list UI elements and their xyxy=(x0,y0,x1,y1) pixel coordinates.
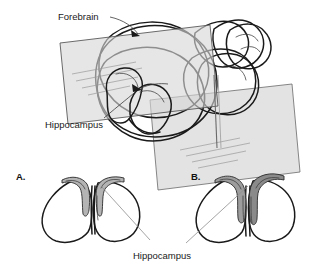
section-a-leader-line xyxy=(101,186,150,240)
bottom-panel-group: A. B. xyxy=(16,171,295,261)
hindbrain-lobe-2 xyxy=(213,20,264,68)
hindbrain-fold-2 xyxy=(241,47,260,52)
hippocampus-label-top: Hippocampus xyxy=(45,119,103,130)
cross-section-a: A. xyxy=(16,171,150,242)
hippocampus-label-bottom: Hippocampus xyxy=(133,250,191,261)
section-a-midline-right xyxy=(94,186,95,234)
top-panel-group: Forebrain Hippocampus xyxy=(45,11,300,190)
forebrain-callout: Forebrain xyxy=(58,11,140,37)
cross-section-a-letter: A. xyxy=(16,171,26,182)
section-a-hippocampus-left xyxy=(62,177,90,216)
anatomical-figure: Forebrain Hippocampus A. xyxy=(0,0,328,269)
forebrain-label: Forebrain xyxy=(58,11,99,22)
figure-root: Forebrain Hippocampus A. xyxy=(0,0,328,269)
cross-section-b-letter: B. xyxy=(191,171,201,182)
section-a-hippocampus-right xyxy=(96,177,124,216)
section-a-midline-left xyxy=(91,186,92,234)
section-b-hippocampus-right xyxy=(249,174,284,225)
